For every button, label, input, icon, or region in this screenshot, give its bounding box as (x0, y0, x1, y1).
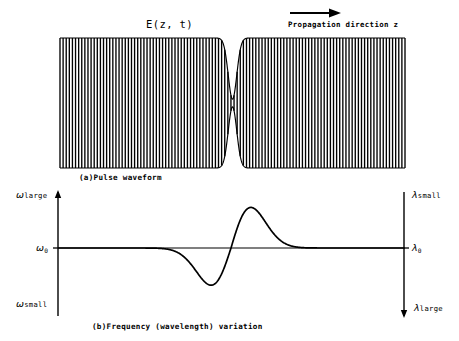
propagation-arrow-icon (290, 9, 341, 18)
axis-label-omega-zero: ω0 (36, 243, 48, 254)
axis-label-lambda-large: λlarge (414, 303, 443, 313)
envelope-upper-curve (60, 38, 405, 99)
pulse-waveform-plot (60, 38, 405, 168)
envelope-lower-curve (60, 107, 405, 168)
axis-label-lambda-small: λsmall (412, 190, 441, 200)
chirp-curve (58, 207, 404, 285)
axis-label-lambda-zero: λ0 (412, 243, 422, 254)
lambda-small-text: small (418, 191, 441, 200)
frequency-variation-plot (53, 190, 409, 318)
omega-symbol: ω (16, 298, 24, 309)
propagation-direction-label: Propagation direction z (288, 21, 398, 28)
caption-pulse-waveform: (a)Pulse waveform (79, 174, 162, 182)
left-axis-up-arrow-icon (55, 190, 61, 198)
omega-large-text: large (24, 191, 47, 200)
axis-label-omega-small: ωsmall (16, 299, 47, 309)
omega-small-text: small (24, 300, 47, 309)
omega-zero-subscript: 0 (44, 247, 48, 254)
figure-canvas (0, 0, 459, 341)
omega-symbol: ω (16, 189, 24, 200)
right-axis-down-arrow-icon (401, 310, 407, 318)
figure-root: E(z, t) Propagation direction z (a)Pulse… (0, 0, 459, 341)
carrier-oscillation-lines (60, 38, 405, 168)
axis-label-omega-large: ωlarge (16, 190, 47, 200)
omega-symbol: ω (36, 242, 44, 253)
page-title: E(z, t) (146, 19, 193, 30)
lambda-large-text: large (420, 304, 443, 313)
caption-frequency-variation: (b)Frequency (wavelength) variation (92, 323, 263, 331)
lambda-zero-subscript: 0 (418, 247, 422, 254)
